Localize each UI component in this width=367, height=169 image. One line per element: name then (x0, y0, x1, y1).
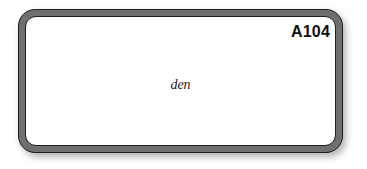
flash-card: A104 den (18, 9, 343, 153)
card-face: A104 den (25, 16, 336, 146)
card-word: den (26, 77, 335, 93)
card-id-label: A104 (291, 23, 330, 41)
